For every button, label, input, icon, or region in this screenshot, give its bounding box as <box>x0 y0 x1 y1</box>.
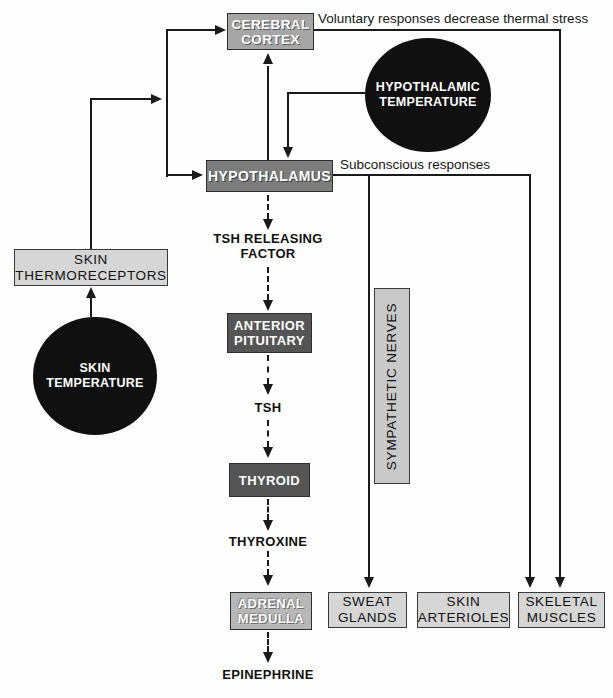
hypothalamic-temperature-label-line2: TEMPERATURE <box>379 95 477 110</box>
thyroxine-text: THYROXINE <box>198 534 338 549</box>
skeletal-muscles-box: SKELETAL MUSCLES <box>518 592 605 628</box>
arrowhead-into-adrenal-medulla <box>263 575 273 586</box>
dashed-anterior-pituitary-to-tsh <box>267 355 269 384</box>
line-hypothalamic-temp-horizontal <box>287 92 365 94</box>
arrowhead-into-trunk <box>151 94 162 104</box>
arrowhead-into-cerebral-cortex <box>215 25 226 35</box>
skin-temperature-label-line1: SKIN <box>79 361 110 376</box>
arrowhead-into-trf <box>263 219 273 230</box>
arrowhead-into-sweat-glands <box>364 577 374 588</box>
skin-thermoreceptors-label-line2: THERMORECEPTORS <box>15 268 166 284</box>
skin-arterioles-box: SKIN ARTERIOLES <box>417 592 510 628</box>
epinephrine-label: EPINEPHRINE <box>198 667 338 682</box>
skin-temperature-label-line2: TEMPERATURE <box>46 376 144 391</box>
skin-arterioles-label-line1: SKIN <box>447 594 481 610</box>
arrowhead-down-into-hypothalamus <box>283 147 293 158</box>
skin-temperature-circle: SKIN TEMPERATURE <box>33 317 157 435</box>
line-subconscious-horizontal <box>333 174 531 176</box>
line-subconscious-drop <box>529 174 531 577</box>
arrowhead-into-thyroid <box>263 447 273 458</box>
skin-thermoreceptors-label-line1: SKIN <box>74 252 108 268</box>
dashed-tsh-to-thyroid <box>267 420 269 447</box>
skeletal-muscles-label-line1: SKELETAL <box>525 594 597 610</box>
adrenal-medulla-box: ADRENAL MEDULLA <box>230 592 312 630</box>
dashed-hypothalamus-to-trf <box>267 195 269 219</box>
line-trunk-to-cortex <box>166 29 220 31</box>
cerebral-cortex-label-line1: CEREBRAL <box>231 17 309 32</box>
sympathetic-nerves-label: SYMPATHETIC NERVES <box>385 302 400 469</box>
arrowhead-into-thermoreceptors <box>86 287 96 298</box>
thyroid-label: THYROID <box>239 473 300 488</box>
skin-thermoreceptors-box: SKIN THERMORECEPTORS <box>14 249 168 286</box>
hypothalamus-box: HYPOTHALAMUS <box>206 160 333 192</box>
adrenal-medulla-label-line2: MEDULLA <box>238 611 304 626</box>
line-left-trunk <box>166 29 168 177</box>
thermoregulation-diagram: Voluntary responses decrease thermal str… <box>0 0 613 698</box>
tsh-releasing-factor-line1: TSH RELEASING <box>198 231 338 246</box>
tsh-label: TSH <box>198 400 338 415</box>
arrowhead-into-epinephrine <box>263 652 273 663</box>
arrowhead-into-tsh <box>263 384 273 395</box>
line-thermoreceptors-up <box>90 98 92 249</box>
tsh-text: TSH <box>198 400 338 415</box>
dashed-thyroid-to-thyroxine <box>267 499 269 520</box>
line-voluntary-drop <box>559 29 561 577</box>
epinephrine-text: EPINEPHRINE <box>198 667 338 682</box>
line-voluntary-horizontal <box>314 29 561 31</box>
arrowhead-into-anterior-pituitary <box>263 300 273 311</box>
sweat-glands-label-line1: SWEAT <box>343 594 393 610</box>
adrenal-medulla-label-line1: ADRENAL <box>238 596 304 611</box>
cerebral-cortex-box: CEREBRAL CORTEX <box>227 13 314 50</box>
thyroxine-label: THYROXINE <box>198 534 338 549</box>
line-skin-temp-to-thermoreceptors <box>90 296 92 317</box>
hypothalamic-temperature-circle: HYPOTHALAMIC TEMPERATURE <box>365 38 491 152</box>
sweat-glands-label-line2: GLANDS <box>338 610 397 626</box>
voluntary-responses-note: Voluntary responses decrease thermal str… <box>318 11 588 26</box>
sweat-glands-box: SWEAT GLANDS <box>328 592 407 628</box>
anterior-pituitary-label-line1: ANTERIOR <box>234 318 305 333</box>
skin-arterioles-label-line2: ARTERIOLES <box>418 610 509 626</box>
anterior-pituitary-box: ANTERIOR PITUITARY <box>227 313 312 353</box>
dashed-thyroxine-to-adrenal <box>267 551 269 575</box>
arrowhead-into-hypothalamus <box>192 170 203 180</box>
dashed-adrenal-to-epinephrine <box>267 632 269 652</box>
tsh-releasing-factor-line2: FACTOR <box>198 246 338 261</box>
sympathetic-nerves-box: SYMPATHETIC NERVES <box>374 288 410 484</box>
arrowhead-subconscious-into-skeletal-muscles <box>525 577 535 588</box>
line-hypothalamic-temp-drop <box>287 92 289 147</box>
line-sympathetic-drop <box>368 174 370 577</box>
hypothalamus-label: HYPOTHALAMUS <box>208 169 331 184</box>
arrowhead-up-into-cortex <box>263 53 273 64</box>
hypothalamic-temperature-label-line1: HYPOTHALAMIC <box>376 80 480 95</box>
subconscious-responses-note: Subconscious responses <box>340 157 490 172</box>
anterior-pituitary-label-line2: PITUITARY <box>234 333 305 348</box>
line-hypothalamus-to-cortex <box>267 66 269 161</box>
line-thermoreceptors-to-trunk <box>90 98 154 100</box>
cerebral-cortex-label-line2: CORTEX <box>241 32 300 47</box>
arrowhead-into-thyroxine <box>263 520 273 531</box>
tsh-releasing-factor-label: TSH RELEASING FACTOR <box>198 231 338 261</box>
dashed-trf-to-anterior-pituitary <box>267 267 269 300</box>
thyroid-box: THYROID <box>229 463 310 497</box>
arrowhead-voluntary-into-skeletal-muscles <box>555 577 565 588</box>
skeletal-muscles-label-line2: MUSCLES <box>527 610 596 626</box>
